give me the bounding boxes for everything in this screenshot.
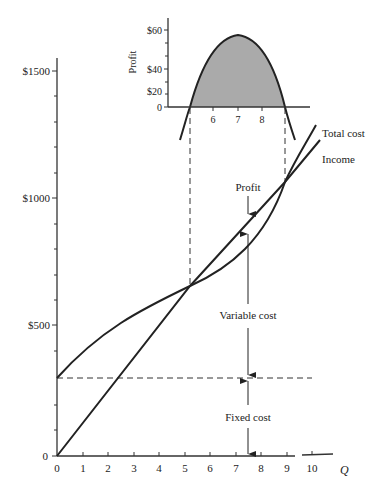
inset-y-label-0: 0 (157, 102, 162, 113)
x-label-5: 5 (182, 462, 188, 474)
profit-label: Profit (235, 181, 260, 193)
inset-x-label-8: 8 (260, 114, 265, 125)
break-even-chart: $1500 $1000 $500 0 0 1 2 3 4 5 6 7 8 9 1… (0, 0, 372, 494)
x-label-1: 1 (80, 462, 86, 474)
inset-x-label-7: 7 (236, 114, 241, 125)
x-label-2: 2 (105, 462, 111, 474)
y-ticks (52, 71, 57, 456)
y-label-1500: $1500 (23, 65, 51, 77)
total-cost-curve (57, 125, 316, 378)
y-label-1000: $1000 (23, 192, 51, 204)
x-ticks (83, 451, 312, 456)
x-label-4: 4 (156, 462, 162, 474)
income-line (57, 140, 320, 456)
x-label-7: 7 (233, 462, 239, 474)
y-label-0: 0 (43, 450, 49, 462)
main-axes (57, 58, 333, 456)
fixed-cost-label: Fixed cost (225, 411, 271, 423)
inset-y-label-60: $60 (147, 25, 162, 36)
profit-inset-chart: $60 $40 $20 0 6 7 8 Profit (127, 18, 310, 140)
x-label-10: 10 (307, 462, 319, 474)
profit-area (190, 35, 285, 107)
inset-y-label-40: $40 (147, 64, 162, 75)
inset-x-label-6: 6 (211, 114, 216, 125)
x-label-0: 0 (54, 462, 60, 474)
x-label-6: 6 (207, 462, 213, 474)
income-label: Income (322, 153, 355, 165)
x-label-9: 9 (284, 462, 290, 474)
x-label-3: 3 (131, 462, 137, 474)
x-axis-title: Q (340, 463, 349, 477)
inset-y-label-20: $20 (147, 86, 162, 97)
inset-y-axis-title: Profit (127, 50, 138, 73)
y-label-500: $500 (28, 319, 51, 331)
x-label-8: 8 (258, 462, 264, 474)
variable-cost-label: Variable cost (219, 309, 276, 321)
total-cost-label: Total cost (322, 127, 365, 139)
